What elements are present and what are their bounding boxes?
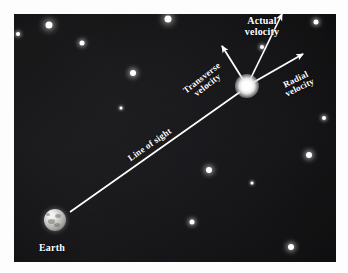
actual-velocity-label: Actual velocity xyxy=(245,16,279,37)
vector-overlay xyxy=(0,0,348,273)
earth-sphere xyxy=(44,209,66,231)
vectors-layer xyxy=(70,14,303,212)
line-of-sight-line xyxy=(70,92,240,212)
earth-label: Earth xyxy=(39,243,65,254)
velocity-diagram-figure: Line of sightTransverse velocityActual v… xyxy=(0,0,348,273)
